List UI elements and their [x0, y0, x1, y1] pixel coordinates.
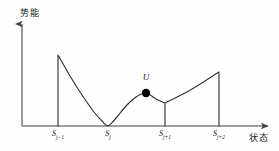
- y-axis-label: 势能: [20, 6, 39, 19]
- x-tick-label-0: Sj−1: [52, 129, 64, 140]
- potential-energy-curve: [58, 55, 219, 126]
- x-tick-label-2: Sj+1: [159, 129, 171, 140]
- potential-curve-group: [58, 55, 219, 126]
- x-axis-label: 状态: [249, 131, 268, 144]
- x-tick-label-1: Sj: [105, 129, 111, 140]
- x-tick-label-3: Sj+2: [213, 129, 225, 140]
- plot-canvas: [0, 0, 279, 151]
- particle-marker-dot: [142, 89, 150, 97]
- particle-label-U: U: [143, 72, 150, 82]
- potential-energy-diagram: 势能 状态 Sj−1SjSj+1Sj+2 U: [0, 0, 279, 151]
